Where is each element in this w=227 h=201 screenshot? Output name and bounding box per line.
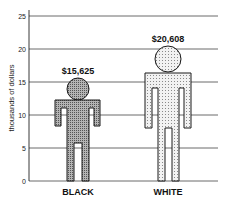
y-tick-15: 15 — [18, 79, 26, 86]
figure-white — [145, 46, 191, 181]
y-tick-20: 20 — [18, 46, 26, 53]
y-tick-5: 5 — [22, 145, 26, 152]
category-label-black: BLACK — [62, 187, 94, 197]
figure-black-head — [67, 78, 89, 100]
figure-black-body — [55, 100, 100, 181]
pictograph-chart: 25 20 15 10 5 0 thousands of dollars $15… — [0, 0, 227, 201]
category-label-white: WHITE — [154, 187, 183, 197]
figure-black — [55, 78, 100, 181]
y-tick-25: 25 — [18, 13, 26, 20]
figure-white-head — [155, 46, 181, 72]
figure-white-body — [145, 73, 191, 181]
y-tick-0: 0 — [22, 178, 26, 185]
y-tick-labels: 25 20 15 10 5 0 — [18, 13, 26, 185]
y-tick-10: 10 — [18, 112, 26, 119]
value-label-white: $20,608 — [152, 34, 185, 44]
y-axis-label: thousands of dollars — [7, 64, 16, 131]
value-label-black: $15,625 — [62, 66, 95, 76]
